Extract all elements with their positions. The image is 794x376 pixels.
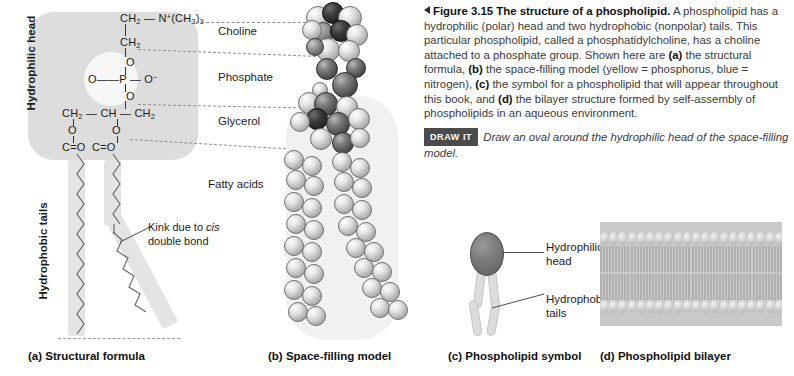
formula-ester-oxygen-left: O bbox=[68, 124, 77, 136]
bilayer-head bbox=[628, 300, 637, 313]
caption-panel-c: (c) Phospholipid symbol bbox=[448, 350, 582, 362]
bilayer-tail bbox=[664, 274, 666, 300]
bilayer-tail bbox=[661, 274, 663, 300]
symbol-tails-label-line2: tails bbox=[546, 307, 566, 319]
bilayer-head bbox=[609, 232, 618, 245]
symbol-hydrophilic-head bbox=[470, 232, 504, 276]
bilayer-tail bbox=[746, 274, 748, 300]
bilayer-tail bbox=[603, 246, 605, 272]
bilayer-head bbox=[600, 232, 609, 245]
bilayer-tail bbox=[640, 274, 642, 300]
bilayer-tail bbox=[640, 246, 642, 272]
bilayer-tail bbox=[661, 246, 663, 272]
bilayer-head bbox=[692, 300, 701, 313]
bilayer-head bbox=[674, 300, 683, 313]
bilayer-head bbox=[674, 232, 683, 245]
caption-panel-b: (b) Space-filling model bbox=[268, 350, 391, 362]
bilayer-head bbox=[710, 300, 719, 313]
bilayer-tail bbox=[652, 246, 654, 272]
symbol-head-label-line2: head bbox=[546, 255, 572, 267]
bilayer-head-row-top bbox=[600, 232, 782, 247]
bilayer-tail bbox=[676, 274, 678, 300]
bilayer-tail bbox=[667, 246, 669, 272]
bilayer-tail bbox=[646, 274, 648, 300]
bilayer-tail-row-bottom bbox=[600, 274, 782, 300]
bilayer-tail bbox=[618, 246, 620, 272]
bilayer-tail bbox=[609, 274, 611, 300]
bilayer-tail bbox=[649, 246, 651, 272]
bilayer-head bbox=[646, 232, 655, 245]
bilayer-tail bbox=[634, 274, 636, 300]
bilayer-tail bbox=[780, 274, 782, 300]
bilayer-tail bbox=[670, 246, 672, 272]
bilayer-tail bbox=[777, 274, 779, 300]
bilayer-tail bbox=[658, 246, 660, 272]
bilayer-tail bbox=[615, 246, 617, 272]
bilayer-tail bbox=[688, 246, 690, 272]
bilayer-head bbox=[609, 300, 618, 313]
bilayer-tail bbox=[603, 274, 605, 300]
phospholipid-bilayer bbox=[600, 222, 782, 326]
bilayer-tail bbox=[722, 274, 724, 300]
formula-phosphate-group: O——P — O− bbox=[88, 73, 158, 85]
bilayer-tail bbox=[634, 246, 636, 272]
hydrophilic-head-label: Hydrophilic head bbox=[25, 3, 37, 123]
bilayer-head bbox=[628, 232, 637, 245]
bilayer-tail bbox=[655, 246, 657, 272]
bilayer-head bbox=[729, 232, 738, 245]
bilayer-tail bbox=[606, 246, 608, 272]
bilayer-tail bbox=[753, 274, 755, 300]
bilayer-head bbox=[683, 300, 692, 313]
bilayer-tail bbox=[713, 246, 715, 272]
bilayer-tail bbox=[728, 246, 730, 272]
bilayer-head bbox=[747, 300, 756, 313]
bilayer-tail bbox=[756, 274, 758, 300]
bilayer-tail bbox=[664, 246, 666, 272]
bilayer-tail bbox=[627, 246, 629, 272]
formula-ch2: CH2 bbox=[120, 36, 141, 50]
bilayer-head bbox=[747, 232, 756, 245]
bilayer-tail bbox=[765, 246, 767, 272]
bilayer-tail bbox=[655, 274, 657, 300]
bilayer-tail bbox=[737, 246, 739, 272]
bilayer-tail bbox=[725, 246, 727, 272]
formula-choline-group: CH2 — N+(CH3)3 bbox=[120, 12, 204, 26]
bilayer-tail bbox=[612, 274, 614, 300]
bilayer-tail bbox=[737, 274, 739, 300]
bilayer-tail bbox=[609, 246, 611, 272]
formula-oxygen-top: O bbox=[126, 56, 135, 68]
kink-text-2: double bond bbox=[148, 235, 209, 247]
bilayer-tail bbox=[753, 246, 755, 272]
bilayer-head bbox=[664, 300, 673, 313]
bilayer-tail bbox=[743, 274, 745, 300]
bilayer-tail bbox=[759, 274, 761, 300]
caption-ref-c: (c) bbox=[475, 78, 489, 90]
figure-3-15: Hydrophilic head CH2 — N+(CH3)3 CH2 O O—… bbox=[0, 0, 794, 376]
bilayer-tail bbox=[716, 246, 718, 272]
bilayer-tail bbox=[692, 246, 694, 272]
hydrophobic-tails-label: Hydrophobic tails bbox=[37, 186, 49, 316]
bilayer-tail bbox=[774, 274, 776, 300]
draw-it-instruction: Draw an oval around the hydrophilic head… bbox=[424, 131, 788, 160]
bilayer-tail bbox=[606, 274, 608, 300]
bilayer-tail bbox=[624, 274, 626, 300]
bilayer-head bbox=[637, 232, 646, 245]
bilayer-tail bbox=[719, 246, 721, 272]
bilayer-tail bbox=[682, 274, 684, 300]
draw-it-badge: DRAW IT bbox=[424, 128, 478, 147]
bilayer-head-row-bottom bbox=[600, 300, 782, 315]
bilayer-tail bbox=[740, 274, 742, 300]
bilayer-tail bbox=[707, 246, 709, 272]
bilayer-tail bbox=[658, 274, 660, 300]
bilayer-tail bbox=[734, 246, 736, 272]
bilayer-tail bbox=[762, 274, 764, 300]
bilayer-tail bbox=[685, 274, 687, 300]
bilayer-tail bbox=[649, 274, 651, 300]
bilayer-tail bbox=[679, 246, 681, 272]
space-filling-model bbox=[250, 0, 430, 340]
bilayer-head bbox=[655, 232, 664, 245]
formula-oxygen-bottom: O bbox=[126, 90, 135, 102]
bilayer-head bbox=[618, 300, 627, 313]
bilayer-head bbox=[720, 232, 729, 245]
leader-symbol-tails bbox=[492, 288, 546, 310]
